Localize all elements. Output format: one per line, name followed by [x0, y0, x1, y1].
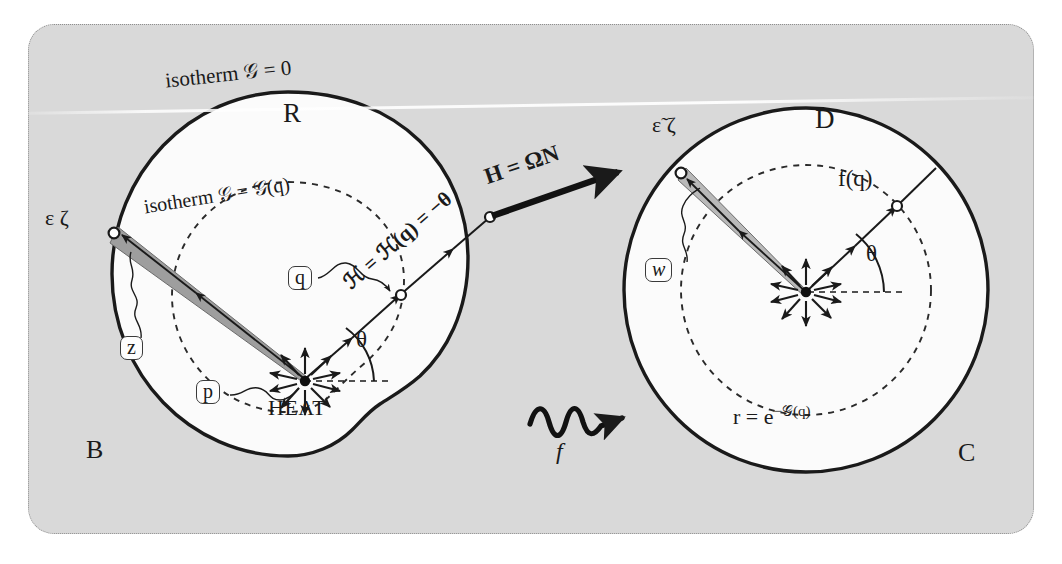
map-arrow-icon [530, 409, 622, 436]
ghost-caption [96, 540, 976, 558]
right-radius-label-lead: r = e [733, 404, 774, 429]
right-image-point-label: f(q) [838, 166, 872, 192]
left-theta-label: θ [356, 327, 367, 353]
right-boundary-point-label: ε̃ ζ [652, 112, 676, 138]
left-outer-region-label: B [86, 435, 103, 465]
right-outer-region-label: C [958, 438, 975, 468]
diagram-canvas [0, 0, 1062, 564]
right-radius-label: r = e−𝒢(q) [733, 403, 810, 430]
left-point-label-q: q [288, 266, 312, 290]
left-point-q [396, 290, 406, 300]
figure-root: isotherm 𝒢 = 0 R isotherm 𝒢 = 𝒢(q) B ε ζ… [0, 0, 1062, 564]
left-region-label: R [283, 98, 301, 129]
left-boundary-point [109, 228, 120, 239]
right-region-label: D [815, 104, 835, 135]
right-theta-label: θ [866, 241, 877, 267]
left-tube-label-z: z [120, 336, 143, 360]
left-center-label-p: p [196, 380, 220, 404]
right-boundary-point [676, 168, 687, 179]
map-arrow-label: f [556, 438, 563, 465]
right-tube-label-w: w [645, 258, 672, 282]
right-radius-label-exponent: −𝒢(q) [774, 403, 811, 419]
right-point-fq [892, 201, 902, 211]
left-boundary-point-label: ε ζ [45, 205, 69, 231]
left-heat-label: HEAT [268, 395, 326, 421]
